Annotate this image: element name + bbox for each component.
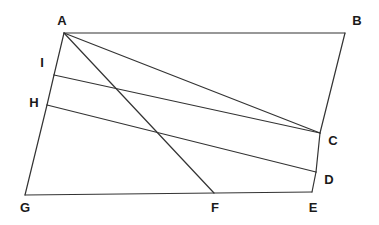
segment-AF xyxy=(64,33,214,193)
segment-DE xyxy=(312,172,316,192)
vertex-label-e: E xyxy=(309,201,318,214)
segment-IA xyxy=(54,33,64,75)
segment-IC xyxy=(54,75,320,133)
vertex-label-h: H xyxy=(29,96,38,109)
segment-BC xyxy=(320,33,345,133)
segments-group xyxy=(25,33,345,195)
segment-GH xyxy=(25,105,47,195)
segment-EG xyxy=(25,192,312,195)
vertex-label-a: A xyxy=(57,14,66,27)
vertex-label-f: F xyxy=(211,201,219,214)
vertex-label-b: B xyxy=(352,14,361,27)
segment-AC xyxy=(64,33,320,133)
geometry-figure: ABCDEFGHI xyxy=(0,0,379,225)
vertex-label-c: C xyxy=(328,134,337,147)
vertex-label-d: D xyxy=(324,173,333,186)
segment-HI xyxy=(47,75,54,105)
vertex-label-g: G xyxy=(20,201,30,214)
vertex-label-i: I xyxy=(40,56,44,69)
segment-CD xyxy=(316,133,320,172)
geometry-canvas xyxy=(0,0,379,225)
